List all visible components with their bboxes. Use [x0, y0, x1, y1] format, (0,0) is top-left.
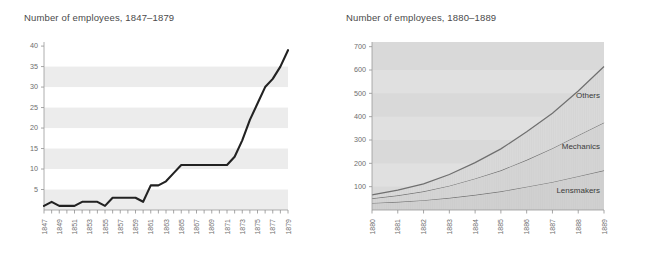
right-xtick-label: 1882: [420, 219, 427, 235]
y-band: [44, 42, 288, 46]
right-ytick-label: 100: [354, 182, 366, 191]
charts-page: Number of employees, 1847–1879 510152025…: [0, 0, 653, 256]
right-xtick-label: 1885: [497, 219, 504, 235]
left-xtick-label: 1875: [254, 219, 261, 235]
left-ytick-label: 15: [30, 144, 38, 153]
chart-panel-right: Number of employees, 1880–1889 100200300…: [334, 0, 653, 256]
left-ytick-label: 5: [34, 185, 38, 194]
left-ytick-label: 20: [30, 123, 38, 132]
series-label-lensmakers: Lensmakers: [556, 186, 600, 195]
right-ytick-label: 500: [354, 89, 366, 98]
right-xtick-label: 1889: [601, 219, 608, 235]
right-chart-svg: 1002003004005006007001880188118821883188…: [364, 40, 641, 245]
left-chart-title: Number of employees, 1847–1879: [24, 12, 174, 23]
left-xtick-label: 1867: [193, 219, 200, 235]
left-xtick-label: 1859: [132, 219, 139, 235]
y-band: [44, 190, 288, 210]
left-chart-svg: 5101520253035401847184918511853185518571…: [38, 40, 320, 245]
right-plot-area: 1002003004005006007001880188118821883188…: [364, 40, 641, 245]
chart-panel-left: Number of employees, 1847–1879 510152025…: [0, 0, 330, 256]
left-xtick-label: 1855: [102, 219, 109, 235]
right-ytick-label: 300: [354, 135, 366, 144]
left-xtick-label: 1865: [178, 219, 185, 235]
left-xtick-label: 1851: [71, 219, 78, 235]
left-xtick-label: 1847: [41, 219, 48, 235]
right-xtick-label: 1887: [549, 219, 556, 235]
right-xtick-label: 1884: [472, 219, 479, 235]
left-ytick-label: 25: [30, 103, 38, 112]
left-xtick-label: 1863: [163, 219, 170, 235]
left-ytick-label: 10: [30, 164, 38, 173]
left-plot-area: 5101520253035401847184918511853185518571…: [38, 40, 320, 245]
right-xtick-label: 1881: [394, 219, 401, 235]
right-ytick-label: 700: [354, 42, 366, 51]
left-xtick-label: 1873: [239, 219, 246, 235]
left-xtick-label: 1879: [285, 219, 292, 235]
right-ytick-label: 200: [354, 159, 366, 168]
left-ytick-label: 30: [30, 82, 38, 91]
right-xtick-label: 1886: [523, 219, 530, 235]
left-xtick-label: 1849: [56, 219, 63, 235]
right-xtick-label: 1880: [369, 219, 376, 235]
right-xtick-label: 1888: [575, 219, 582, 235]
left-xtick-label: 1861: [147, 219, 154, 235]
right-chart-title: Number of employees, 1880–1889: [346, 12, 496, 23]
y-band: [44, 67, 288, 87]
series-label-others: Others: [576, 91, 600, 100]
y-band: [44, 149, 288, 169]
left-xtick-label: 1857: [117, 219, 124, 235]
left-xtick-label: 1871: [224, 219, 231, 235]
left-ytick-label: 35: [30, 62, 38, 71]
y-band: [372, 70, 604, 93]
right-xtick-label: 1883: [446, 219, 453, 235]
left-xtick-label: 1853: [86, 219, 93, 235]
series-label-mechanics: Mechanics: [562, 142, 600, 151]
right-ytick-label: 400: [354, 112, 366, 121]
right-ytick-label: 600: [354, 65, 366, 74]
left-ytick-label: 40: [30, 41, 38, 50]
left-xtick-label: 1877: [269, 219, 276, 235]
left-xtick-label: 1869: [208, 219, 215, 235]
